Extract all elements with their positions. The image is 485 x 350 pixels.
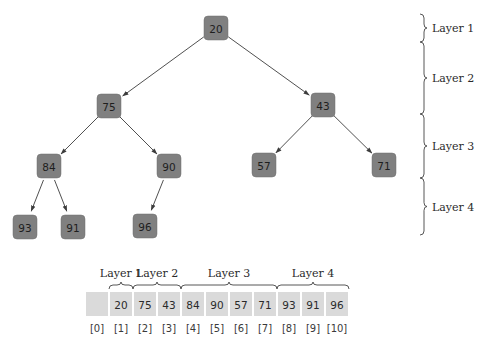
array-layer-brace [277, 282, 349, 289]
node-value: 93 [18, 222, 31, 234]
array-index: [7] [258, 323, 272, 334]
tree-edge-arrow [123, 37, 204, 96]
tree-edge-arrow [31, 180, 43, 211]
array-layer-label: Layer 3 [208, 267, 250, 280]
node-value: 43 [316, 100, 329, 112]
tree-node: 93 [13, 215, 37, 239]
layer-braces: Layer 1Layer 2Layer 3Layer 4 [420, 14, 474, 235]
layer-brace [420, 42, 427, 114]
node-value: 71 [377, 160, 390, 172]
tree-edge-arrow [228, 37, 309, 95]
array-cell-value: 93 [282, 299, 295, 311]
tree-edge-arrow [151, 180, 163, 210]
array-cell-value: 57 [234, 299, 247, 311]
tree-edge-arrow [276, 116, 313, 153]
array-cell-value: 91 [306, 299, 319, 311]
layer-brace [420, 114, 427, 178]
layer-label: Layer 2 [432, 72, 474, 85]
tree-edge-arrow [54, 180, 66, 211]
layer-label: Layer 3 [432, 140, 474, 153]
array-layer-brace [181, 282, 277, 289]
tree-edge-arrow [120, 117, 157, 154]
array-index: [8] [282, 323, 296, 334]
array-cell-value: 90 [210, 299, 223, 311]
tree-node: 57 [252, 153, 276, 177]
array-layer-label: Layer 2 [136, 267, 178, 280]
array-layer-brace [109, 282, 133, 289]
array-index: [4] [186, 323, 200, 334]
layer-label: Layer 4 [432, 201, 474, 214]
array-index: [6] [234, 323, 248, 334]
tree-edges [31, 37, 372, 211]
node-value: 75 [102, 101, 115, 113]
node-value: 90 [162, 161, 175, 173]
array-cell-value: 96 [330, 299, 344, 311]
tree-nodes: 20754384905771939196 [13, 16, 396, 239]
node-value: 57 [257, 160, 270, 172]
array-cell-value: 75 [138, 299, 151, 311]
tree-node: 43 [311, 93, 335, 117]
tree-edge-arrow [61, 117, 98, 154]
tree-node: 71 [372, 153, 396, 177]
array-cell-value: 71 [258, 299, 271, 311]
array-cell-value: 20 [114, 299, 127, 311]
tree-node: 75 [97, 94, 121, 118]
array-cell-value: 43 [162, 299, 175, 311]
tree-edge-arrow [334, 116, 372, 154]
node-value: 20 [209, 23, 222, 35]
tree-node: 84 [37, 154, 61, 178]
tree-node: 20 [204, 16, 228, 40]
array-index: [1] [114, 323, 128, 334]
node-value: 84 [42, 161, 56, 173]
array-representation: [0]20[1]75[2]43[3]84[4]90[5]57[6]71[7]93… [86, 267, 349, 334]
array-cell [86, 292, 108, 316]
layer-brace [420, 14, 427, 42]
array-layer-brace [133, 282, 181, 289]
array-index: [3] [162, 323, 176, 334]
node-value: 96 [138, 221, 152, 233]
array-layer-label: Layer 4 [292, 267, 334, 280]
array-cell-value: 84 [186, 299, 200, 311]
tree-node: 91 [61, 215, 85, 239]
array-index: [0] [90, 323, 104, 334]
array-index: [9] [306, 323, 320, 334]
layer-brace [420, 178, 427, 235]
tree-node: 90 [157, 154, 181, 178]
heap-diagram: 20754384905771939196 Layer 1Layer 2Layer… [0, 0, 485, 350]
array-index: [10] [327, 323, 348, 334]
array-index: [5] [210, 323, 224, 334]
tree-node: 96 [133, 214, 157, 238]
node-value: 91 [66, 222, 79, 234]
layer-label: Layer 1 [432, 22, 474, 35]
array-index: [2] [138, 323, 152, 334]
